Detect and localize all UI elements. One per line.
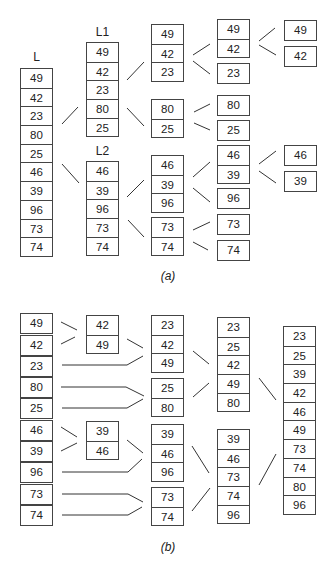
array-cell: 74 xyxy=(284,458,315,477)
array-cell: 46 xyxy=(87,162,118,181)
array-box: 74 xyxy=(217,240,250,261)
array-cell: 42 xyxy=(218,39,249,58)
array-box: 46 xyxy=(20,420,53,441)
array-cell: 73 xyxy=(152,488,183,507)
array-cell: 49 xyxy=(21,69,52,88)
array-box: 23 xyxy=(217,63,250,84)
array-cell: 74 xyxy=(152,237,183,256)
array-box: 394696 xyxy=(151,424,184,482)
array-box: 8025 xyxy=(151,99,184,138)
array-cell: 42 xyxy=(87,62,118,81)
array-cell: 39 xyxy=(284,364,315,383)
array-cell: 96 xyxy=(152,193,183,212)
array-cell: 74 xyxy=(21,237,52,256)
array-box: 4942 xyxy=(217,19,250,58)
array-box: 80 xyxy=(20,377,53,398)
array-cell: 46 xyxy=(285,146,316,165)
array-cell: 25 xyxy=(87,118,118,137)
array-cell: 23 xyxy=(87,80,118,99)
array-cell: 46 xyxy=(152,156,183,175)
array-cell: 96 xyxy=(284,495,315,514)
array-cell: 42 xyxy=(218,355,249,374)
array-cell: 39 xyxy=(218,430,249,449)
array-cell: 80 xyxy=(21,378,52,397)
array-box-L2: 4639967374 xyxy=(86,161,119,256)
array-cell: 23 xyxy=(218,64,249,83)
array-cell: 42 xyxy=(87,316,118,335)
array-cell: 96 xyxy=(21,200,52,219)
array-box: 234249 xyxy=(151,315,184,373)
array-box: 3946737496 xyxy=(217,429,250,524)
array-cell: 96 xyxy=(152,462,183,481)
array-cell: 42 xyxy=(21,88,52,107)
array-cell: 49 xyxy=(285,21,316,40)
array-cell: 25 xyxy=(152,379,183,398)
array-box-L: 49422380254639967374 xyxy=(20,68,53,257)
array-cell: 46 xyxy=(21,421,52,440)
caption-b: (b) xyxy=(148,540,188,554)
caption-a-text: (a) xyxy=(161,269,176,283)
array-box: 7374 xyxy=(151,487,184,526)
array-cell: 23 xyxy=(152,62,183,81)
caption-a: (a) xyxy=(148,269,188,283)
array-cell: 23 xyxy=(152,316,183,335)
array-box: 73 xyxy=(217,214,250,235)
array-cell: 39 xyxy=(87,181,118,200)
array-box: 39 xyxy=(20,441,53,462)
array-cell: 46 xyxy=(152,444,183,463)
array-cell: 49 xyxy=(152,353,183,372)
array-cell: 25 xyxy=(218,121,249,140)
array-box: 49 xyxy=(20,313,53,334)
array-cell: 80 xyxy=(21,125,52,144)
array-cell: 39 xyxy=(152,175,183,194)
array-cell: 39 xyxy=(21,181,52,200)
array-cell: 80 xyxy=(87,99,118,118)
array-box: 23 xyxy=(20,356,53,377)
array-cell: 39 xyxy=(87,422,118,441)
array-box: 4639 xyxy=(217,145,250,184)
array-cell: 23 xyxy=(218,318,249,337)
array-box: 2580 xyxy=(151,378,184,417)
array-cell: 39 xyxy=(218,165,249,184)
array-cell: 46 xyxy=(218,449,249,468)
array-box: 4249 xyxy=(86,315,119,354)
array-cell: 39 xyxy=(285,172,316,191)
array-cell: 42 xyxy=(152,44,183,63)
array-cell: 73 xyxy=(21,485,52,504)
array-cell: 80 xyxy=(218,393,249,412)
array-box: 494223 xyxy=(151,24,184,82)
array-cell: 23 xyxy=(21,106,52,125)
array-cell: 46 xyxy=(21,162,52,181)
array-box: 3946 xyxy=(86,421,119,460)
array-cell: 73 xyxy=(152,218,183,237)
array-cell: 80 xyxy=(218,96,249,115)
array-cell: 46 xyxy=(218,146,249,165)
array-box: 42 xyxy=(284,46,317,67)
array-box: 96 xyxy=(20,462,53,483)
array-cell: 73 xyxy=(284,439,315,458)
array-cell: 25 xyxy=(21,144,52,163)
array-box: 96 xyxy=(217,188,250,209)
array-cell: 73 xyxy=(218,467,249,486)
array-cell: 49 xyxy=(218,20,249,39)
array-cell: 80 xyxy=(152,100,183,119)
array-cell: 49 xyxy=(152,25,183,44)
array-cell: 74 xyxy=(218,486,249,505)
array-cell: 42 xyxy=(152,335,183,354)
label-L2: L2 xyxy=(86,144,119,158)
array-box: 7374 xyxy=(151,217,184,256)
array-cell: 73 xyxy=(218,215,249,234)
array-cell: 49 xyxy=(21,314,52,333)
array-box: 25 xyxy=(20,398,53,419)
array-box-L1: 4942238025 xyxy=(86,42,119,137)
label-L: L xyxy=(20,50,53,64)
array-box: 42 xyxy=(20,335,53,356)
array-box: 39 xyxy=(284,171,317,192)
array-cell: 42 xyxy=(284,383,315,402)
array-cell: 74 xyxy=(218,241,249,260)
array-cell: 96 xyxy=(21,463,52,482)
array-cell: 73 xyxy=(21,219,52,238)
array-cell: 42 xyxy=(285,47,316,66)
array-cell: 49 xyxy=(87,335,118,354)
array-cell: 42 xyxy=(21,336,52,355)
